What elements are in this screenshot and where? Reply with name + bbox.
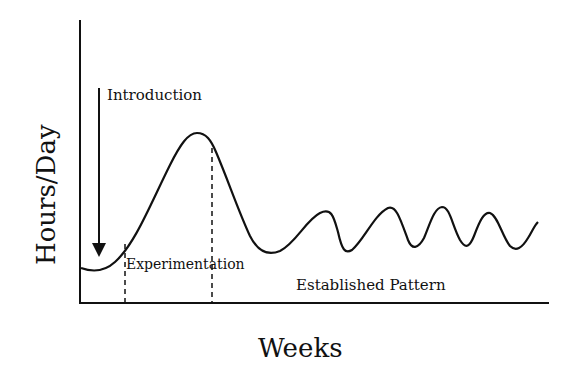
x-axis-label: Weeks: [258, 333, 342, 363]
established-pattern-label: Established Pattern: [296, 276, 446, 294]
introduction-label: Introduction: [107, 86, 202, 104]
experimentation-label: Experimentation: [126, 256, 245, 272]
y-axis-label: Hours/Day: [31, 124, 61, 265]
usage-curve: [81, 133, 538, 270]
usage-diagram: [0, 0, 573, 374]
arrowhead-icon: [92, 243, 106, 257]
